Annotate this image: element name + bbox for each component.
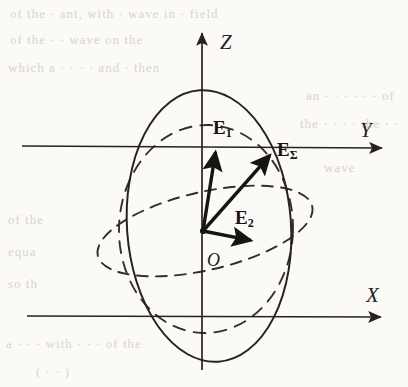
- vector-label-e1: E1: [213, 118, 232, 137]
- axis-label-z: Z: [220, 30, 232, 55]
- vector-label-esum-subscript: Σ: [290, 148, 298, 162]
- vector-e2: [203, 231, 251, 240]
- origin-label: O: [207, 250, 220, 271]
- vector-label-e2-symbol: E: [235, 207, 248, 228]
- vector-label-e2-subscript: 2: [248, 216, 254, 230]
- figure-canvas: of the · ant, with · wave in · fieldof t…: [0, 0, 408, 387]
- vector-label-e1-subscript: 1: [226, 126, 232, 140]
- vector-label-e2: E2: [235, 208, 254, 227]
- axis-label-x: X: [366, 283, 379, 308]
- vector-label-esum-symbol: E: [277, 139, 290, 160]
- vector-diagram-svg: [0, 0, 408, 387]
- vector-label-esum: EΣ: [277, 140, 298, 159]
- vector-label-e1-symbol: E: [213, 117, 226, 138]
- origin-point: [200, 228, 206, 234]
- axis-x: [27, 316, 381, 317]
- axis-label-y: Y: [360, 118, 372, 143]
